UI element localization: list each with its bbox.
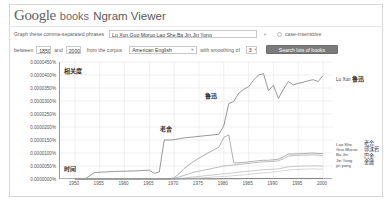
x-tick-label: 1965 xyxy=(143,181,153,186)
x-tick-label: 1950 xyxy=(69,181,79,186)
search-button[interactable]: Search lots of books xyxy=(266,45,338,54)
y-tick-label: 0.0000000% xyxy=(12,177,56,182)
app-header: Google books Ngram Viewer xyxy=(14,8,166,24)
and-label: and xyxy=(54,47,63,53)
plot-svg xyxy=(60,62,333,179)
chevron-down-icon[interactable]: ▼ xyxy=(263,32,267,37)
case-insensitive-label: case-insensitive xyxy=(285,31,321,37)
plot-area xyxy=(59,62,332,179)
ngram-viewer-page: Google books Ngram Viewer Graph these co… xyxy=(0,0,392,201)
corpus-selected-value: American English xyxy=(132,46,172,54)
year-start-input[interactable]: 1850 xyxy=(36,46,51,54)
y-axis-annotation-cn: 相关度 xyxy=(64,66,82,75)
legend-item-cn-guo-moruo: 郭沫若 xyxy=(364,146,379,152)
legend-lu-xun[interactable]: Lu Xun 鲁迅 xyxy=(336,74,364,83)
phrases-row: Graph these comma-separated phrases Lu X… xyxy=(14,30,321,38)
legend-lu-xun-name: Lu Xun xyxy=(336,77,351,82)
x-tick-label: 1970 xyxy=(168,181,178,186)
x-tick-label: 2000 xyxy=(317,181,327,186)
y-tick-label: 0.0000150% xyxy=(12,138,56,143)
legend-item-jin-yong[interactable]: jin yong xyxy=(336,163,358,168)
corpus-label: from the corpus xyxy=(87,47,122,53)
legend-lu-xun-cn: 鲁迅 xyxy=(352,75,364,82)
smoothing-label: with smoothing of xyxy=(200,47,240,53)
legend-item-cn-jin-yong: 金庸 xyxy=(364,159,379,165)
chevron-down-icon: ▼ xyxy=(190,46,194,54)
y-tick-label: 0.0000350% xyxy=(12,86,56,91)
case-insensitive-toggle[interactable]: case-insensitive xyxy=(277,31,321,37)
ngram-chart: 0.0000450%0.0000400%0.0000350%0.0000300%… xyxy=(12,58,380,190)
y-tick-label: 0.0000450% xyxy=(12,60,56,65)
x-tick-label: 1980 xyxy=(218,181,228,186)
x-tick-label: 1955 xyxy=(94,181,104,186)
phrases-label: Graph these comma-separated phrases xyxy=(14,31,104,37)
lao-she-annotation: 老舍 xyxy=(160,124,172,133)
chevron-down-icon: ▼ xyxy=(254,46,257,54)
x-tick-label: 1960 xyxy=(118,181,128,186)
x-tick-label: 1995 xyxy=(292,181,302,186)
y-tick-label: 0.0000100% xyxy=(12,151,56,156)
y-tick-label: 0.0000200% xyxy=(12,125,56,130)
smoothing-select[interactable]: 3 ▼ xyxy=(246,46,257,54)
legend-names[interactable]: Lao SheGuo MoruoBa JinJin Yongjin yong xyxy=(336,142,358,168)
x-tick-label: 1985 xyxy=(242,181,252,186)
smoothing-selected-value: 3 xyxy=(249,46,252,54)
legend-names-cn: 老舍郭沫若巴金金庸 xyxy=(364,140,379,165)
y-tick-label: 0.0000250% xyxy=(12,112,56,117)
corpus-select[interactable]: American English ▼ xyxy=(129,46,197,54)
google-logo[interactable]: Google xyxy=(14,8,56,23)
y-tick-label: 0.0000050% xyxy=(12,164,56,169)
year-end-input[interactable]: 2000 xyxy=(66,46,81,54)
y-tick-label: 0.0000400% xyxy=(12,73,56,78)
y-tick-label: 0.0000300% xyxy=(12,99,56,104)
options-row: between 1850 and 2000 from the corpus Am… xyxy=(14,45,338,54)
x-tick-label: 1975 xyxy=(193,181,203,186)
lu-xun-annotation: 鲁迅 xyxy=(205,91,217,100)
books-label[interactable]: books xyxy=(60,10,89,22)
checkbox-icon[interactable] xyxy=(277,32,282,37)
between-label: between xyxy=(14,47,33,53)
phrases-input[interactable]: Lu Xun,Guo Moruo,Lao She,Ba Jin,Jin Yong xyxy=(109,30,257,38)
page-title: Ngram Viewer xyxy=(93,10,166,22)
x-axis-annotation-cn: 时间 xyxy=(64,164,76,173)
header-divider xyxy=(10,26,382,27)
x-tick-label: 1990 xyxy=(267,181,277,186)
